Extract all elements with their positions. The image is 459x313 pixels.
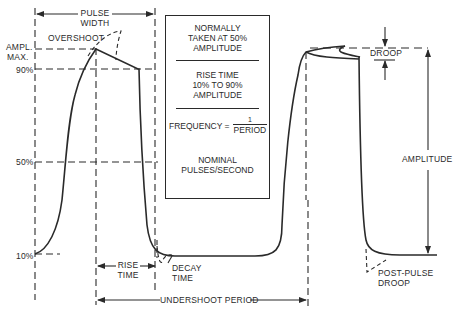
info-line: PULSES/SECOND [166,165,269,175]
level-90-label: 90% [16,65,34,75]
pulse-width-label-line2: WIDTH [75,18,115,28]
ampl-max-label: AMPL. MAX. [6,42,33,62]
undershoot-period-label: UNDERSHOOT PERIOD [160,295,259,305]
decay-time-line1: DECAY [172,263,202,273]
amplitude-label: AMPLITUDE [402,154,452,164]
info-line: RISE TIME [166,70,269,80]
decay-time-line2: TIME [172,273,202,283]
post-pulse-line2: DROOP [378,278,433,288]
info-line: AMPLITUDE [166,90,269,100]
frequency-fraction: 1 PERIOD [233,116,268,135]
post-pulse-line1: POST-PULSE [378,268,433,278]
ampl-max-line1: AMPL. [6,42,33,52]
info-line: 10% TO 90% [166,80,269,90]
rise-time-line2: TIME [114,270,142,280]
info-box-divider [176,60,259,61]
info-box-divider [176,108,259,109]
pulse-width-label: PULSE WIDTH [75,8,115,28]
post-pulse-droop-label: POST-PULSE DROOP [378,268,433,288]
info-box: NORMALLY TAKEN AT 50% AMPLITUDE RISE TIM… [165,15,270,199]
decay-time-label: DECAY TIME [172,263,202,283]
overshoot-label: OVERSHOOT [48,33,104,43]
info-line: NOMINAL [166,155,269,165]
frequency-formula: FREQUENCY = 1 PERIOD [169,116,267,135]
ampl-max-line2: MAX. [6,52,33,62]
info-box-frequency-unit: NOMINAL PULSES/SECOND [166,155,269,175]
info-line: TAKEN AT 50% [166,33,269,43]
droop-label: DROOP [370,48,402,58]
frequency-label: FREQUENCY = [169,121,230,131]
rise-time-label: RISE TIME [114,260,142,280]
info-line: NORMALLY [166,23,269,33]
info-line: AMPLITUDE [166,43,269,53]
fraction-numerator: 1 [248,116,252,124]
level-10-label: 10% [16,251,34,261]
rise-time-line1: RISE [114,260,142,270]
info-box-pulse-width-note: NORMALLY TAKEN AT 50% AMPLITUDE [166,23,269,53]
info-box-rise-time-note: RISE TIME 10% TO 90% AMPLITUDE [166,70,269,100]
level-50-label: 50% [16,157,34,167]
pulse-width-label-line1: PULSE [75,8,115,18]
second-pulse-waveform [282,46,437,255]
fraction-denominator: PERIOD [233,124,268,135]
